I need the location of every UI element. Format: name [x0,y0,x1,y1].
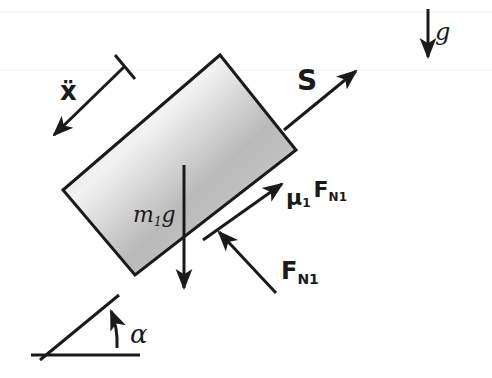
friction-label-F: F [314,177,329,202]
angle-label: α [130,319,148,349]
normal-label-sub: N1 [297,271,318,287]
angle-incline-line [40,295,119,360]
weight-label-sub: 1 [154,215,162,229]
force-normal: FN1 [219,232,319,293]
friction-label-mu: μ [286,185,302,210]
normal-arrow-icon [219,232,276,293]
gravity-indicator: g [428,9,450,57]
block [63,55,296,275]
normal-force-label: FN1 [281,257,319,287]
friction-label: μ1FN1 [286,177,347,210]
rope-arrow-icon [284,71,356,130]
acceleration-indicator: ẍ [54,55,135,135]
friction-label-F-sub: N1 [329,190,347,204]
free-body-diagram: g ẍ S m1g μ1FN1 FN1 α [0,0,492,378]
scan-background [0,12,492,70]
friction-label-mu-sub: 1 [302,196,310,210]
weight-label-g: g [162,202,176,227]
gravity-label: g [435,18,450,46]
force-rope: S [284,64,356,130]
weight-label-m: m [133,202,154,227]
acceleration-label: ẍ [60,76,77,106]
rope-force-label: S [297,64,317,97]
incline-angle: α [31,295,148,360]
acceleration-start-bar [115,55,135,79]
normal-label-F: F [281,257,297,285]
angle-arc-arrow-icon [111,311,117,348]
